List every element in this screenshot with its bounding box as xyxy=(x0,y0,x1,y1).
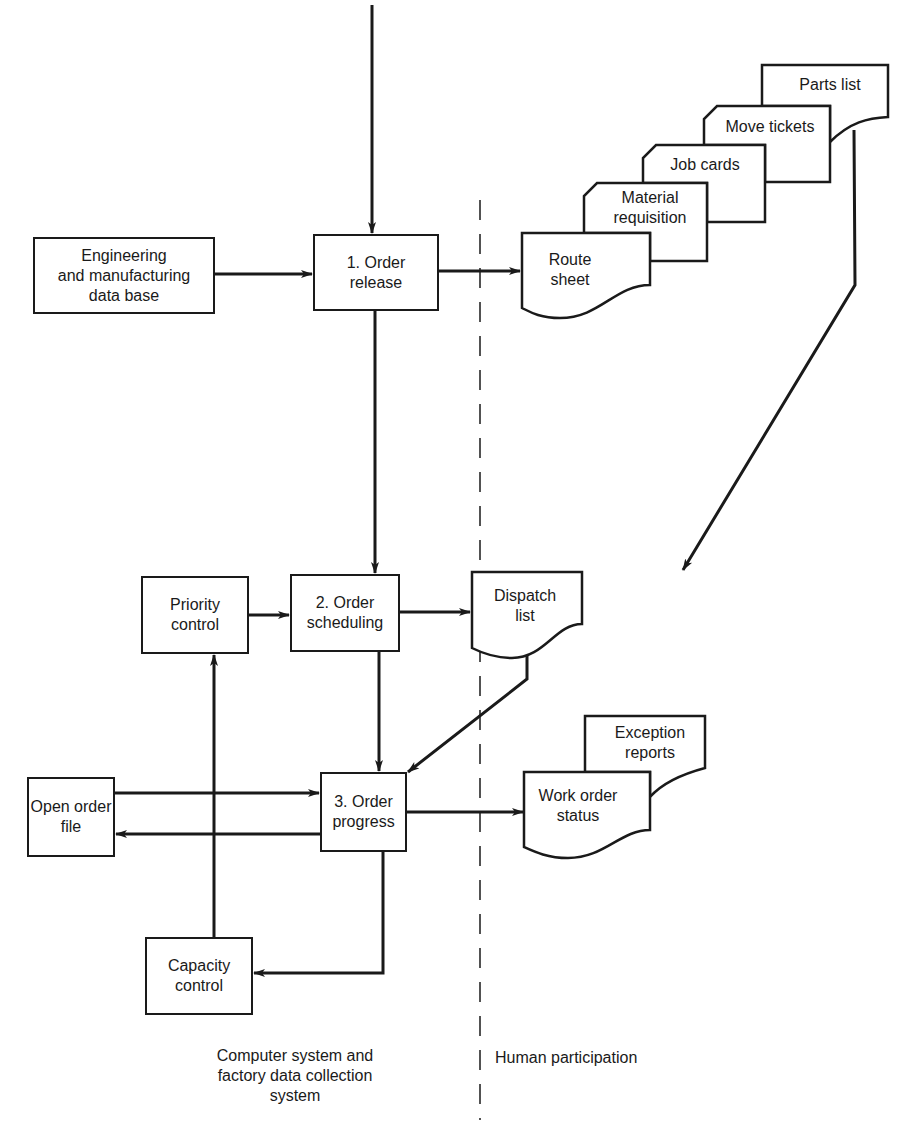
label-exception-reports: Exception reports xyxy=(600,723,700,763)
label-parts-list: Parts list xyxy=(785,75,875,95)
label-work-order-status: Work order status xyxy=(528,786,628,826)
box-order-scheduling: 2. Order scheduling xyxy=(290,574,400,652)
label-material-requisition: Material requisition xyxy=(600,188,700,228)
box-order-progress: 3. Order progress xyxy=(320,772,407,852)
label-route-sheet: Route sheet xyxy=(530,250,610,290)
arrow-dispatch-to-progress xyxy=(408,656,527,772)
caption-human-participation: Human participation xyxy=(495,1048,675,1068)
label-job-cards: Job cards xyxy=(660,155,750,175)
box-open-order-file: Open order file xyxy=(27,777,115,857)
label-dispatch-list: Dispatch list xyxy=(480,586,570,626)
box-order-release: 1. Order release xyxy=(313,234,439,311)
box-capacity-control: Capacity control xyxy=(145,937,253,1015)
flow-connectors xyxy=(0,0,908,1126)
box-engineering-database: Engineering and manufacturing data base xyxy=(33,237,215,314)
label-move-tickets: Move tickets xyxy=(712,117,828,137)
arrow-progress-to-capacity xyxy=(254,852,383,973)
caption-computer-system: Computer system and factory data collect… xyxy=(200,1046,390,1106)
box-priority-control: Priority control xyxy=(141,576,249,654)
